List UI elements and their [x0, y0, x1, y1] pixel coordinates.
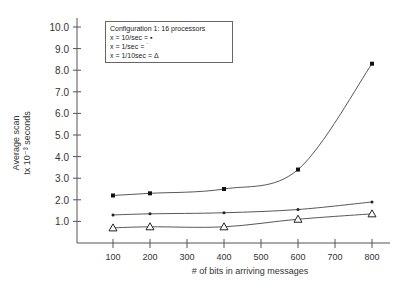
square-marker-icon — [222, 187, 226, 191]
x-tick-label: 400 — [216, 252, 231, 262]
y-tick-label: 5.0 — [55, 130, 69, 141]
y-tick-label: 3.0 — [55, 173, 69, 184]
legend-title: Configuration 1: 16 processors — [110, 24, 228, 33]
square-marker-icon — [111, 193, 115, 197]
triangle-marker-icon — [146, 223, 154, 230]
legend-entry-10-per-sec: x = 10/sec = ▪ — [110, 33, 228, 42]
dot-marker-icon — [223, 211, 226, 214]
y-axis-label-line1: Average scan — [11, 88, 22, 198]
legend-entry-1-per-10sec: x = 1/10sec = Δ — [110, 51, 228, 60]
y-tick-label: 1.0 — [55, 216, 69, 227]
x-axis-label: # of bits in arriving messages — [120, 266, 380, 276]
y-tick-label: 6.0 — [55, 108, 69, 119]
square-marker-icon — [370, 62, 374, 66]
square-marker-icon — [296, 168, 300, 172]
dot-marker-icon — [297, 208, 300, 211]
series-dot — [112, 200, 374, 216]
y-tick-label: 7.0 — [55, 87, 69, 98]
x-axis-ticks: 100200300400500600700800 — [105, 239, 379, 262]
triangle-marker-icon — [368, 210, 376, 217]
dot-marker-icon — [112, 213, 115, 216]
y-tick-label: 8.0 — [55, 65, 69, 76]
y-axis-label-line2: tx 10⁻³ seconds — [22, 88, 33, 198]
x-tick-label: 200 — [142, 252, 157, 262]
x-tick-label: 300 — [179, 252, 194, 262]
dot-marker-icon — [149, 212, 152, 215]
legend-entry-1-per-sec: x = 1/sec = ˙ — [110, 42, 228, 51]
x-tick-label: 700 — [327, 252, 342, 262]
y-tick-label: 9.0 — [55, 44, 69, 55]
series-square — [111, 62, 374, 198]
y-tick-label: 2.0 — [55, 195, 69, 206]
series-line — [113, 202, 372, 215]
square-marker-icon — [148, 191, 152, 195]
y-tick-label: 10.0 — [50, 22, 70, 33]
data-series — [109, 62, 376, 231]
y-axis-ticks: 1.02.03.04.05.06.07.08.09.010.0 — [50, 22, 81, 227]
x-tick-label: 800 — [364, 252, 379, 262]
dot-marker-icon — [371, 200, 374, 203]
y-tick-label: 4.0 — [55, 152, 69, 163]
legend: Configuration 1: 16 processors x = 10/se… — [105, 21, 233, 63]
x-tick-label: 600 — [290, 252, 305, 262]
x-tick-label: 100 — [105, 252, 120, 262]
series-line — [113, 64, 372, 196]
x-tick-label: 500 — [253, 252, 268, 262]
